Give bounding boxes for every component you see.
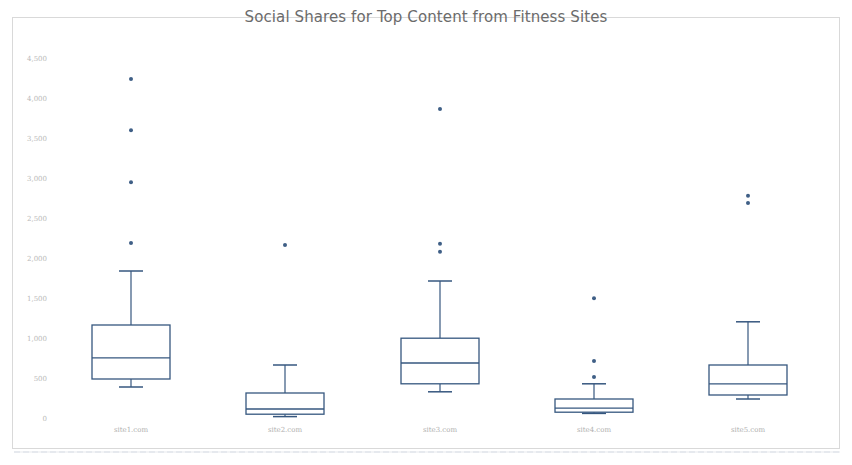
- outlier-point: [129, 77, 133, 81]
- plot-area: [0, 0, 852, 465]
- iqr-box: [401, 338, 479, 384]
- iqr-box: [555, 399, 633, 412]
- outlier-point: [746, 201, 750, 205]
- box-site4-com: [555, 296, 633, 413]
- outlier-point: [592, 375, 596, 379]
- outlier-point: [129, 241, 133, 245]
- outlier-point: [592, 296, 596, 300]
- outlier-point: [746, 194, 750, 198]
- outlier-point: [129, 128, 133, 132]
- box-site3-com: [401, 107, 479, 392]
- outlier-point: [438, 250, 442, 254]
- outlier-point: [129, 180, 133, 184]
- iqr-box: [709, 365, 787, 395]
- outlier-point: [438, 242, 442, 246]
- box-site5-com: [709, 194, 787, 399]
- outlier-point: [592, 359, 596, 363]
- box-site2-com: [246, 243, 324, 417]
- box-site1-com: [92, 77, 170, 387]
- outlier-point: [283, 243, 287, 247]
- iqr-box: [246, 393, 324, 414]
- outlier-point: [438, 107, 442, 111]
- iqr-box: [92, 325, 170, 379]
